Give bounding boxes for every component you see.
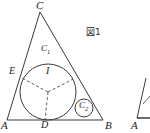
small-circle-label-c2: C2	[79, 101, 88, 112]
vertex-label-b: B	[105, 120, 112, 131]
geometry-figure-1: C A B E D I C1 C2 A 図1	[0, 0, 150, 133]
tangent-point-label-d: D	[41, 120, 48, 130]
incircle-label-subscript: 1	[47, 48, 50, 55]
secondary-figure-partial	[137, 78, 150, 118]
incenter-label-i: I	[46, 66, 49, 76]
radius-i-to-d	[45, 92, 48, 120]
radius-i-to-e	[22, 78, 48, 92]
secondary-figure-vertex-label-a: A	[131, 120, 138, 131]
vertex-label-a: A	[1, 120, 8, 131]
small-circle-label-subscript: 2	[85, 105, 88, 112]
figure-caption: 図1	[86, 28, 101, 37]
incircle-label-c1: C1	[41, 44, 50, 55]
tangent-point-label-e: E	[9, 66, 15, 76]
figure-canvas	[0, 0, 150, 133]
vertex-label-c: C	[36, 0, 43, 11]
radius-i-to-bc-tangent	[48, 79, 73, 92]
